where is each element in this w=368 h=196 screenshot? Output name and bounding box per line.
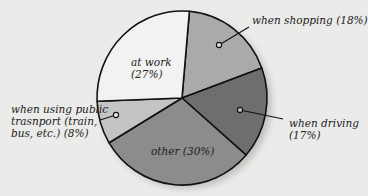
label-transport-line2: trasnport (train, [11,115,108,127]
label-other-text: other (30%) [151,145,214,157]
label-driving-name: when driving [289,117,359,129]
label-other: other (30%) [151,145,214,157]
label-driving-value: (17%) [289,129,359,141]
label-transport-line3: bus, etc.) (8%) [11,127,108,139]
shopping-marker [216,42,221,47]
label-driving: when driving (17%) [289,117,359,141]
label-at-work-name: at work [131,56,172,68]
label-at-work: at work (27%) [131,56,172,80]
label-shopping: when shopping (18%) [252,14,368,26]
pie-slices [97,11,267,185]
label-transport: when using public trasnport (train, bus,… [11,103,108,139]
transport-marker [113,112,118,117]
label-transport-line1: when using public [11,103,108,115]
label-shopping-text: when shopping (18%) [252,14,368,26]
label-at-work-value: (27%) [131,68,172,80]
driving-marker [237,107,242,112]
